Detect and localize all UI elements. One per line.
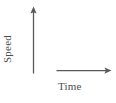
x-axis-label: Time xyxy=(58,81,82,92)
y-axis-label-text: Speed xyxy=(2,35,13,63)
x-axis-label-text: Time xyxy=(58,80,82,92)
speed-time-axes-diagram: Speed Time xyxy=(0,0,116,103)
y-axis-label: Speed xyxy=(0,28,14,70)
